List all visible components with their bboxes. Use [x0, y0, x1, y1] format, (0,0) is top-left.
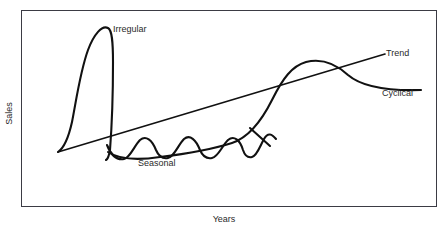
figure-title	[0, 0, 448, 3]
y-axis-label: Sales	[4, 94, 15, 134]
plot-frame	[21, 10, 437, 207]
series-label-cyclical: Cyclical	[382, 88, 413, 99]
time-series-decomposition-figure: Irregular Trend Cyclical Seasonal Sales …	[0, 0, 448, 233]
series-label-irregular: Irregular	[113, 24, 147, 35]
x-axis-label: Years	[0, 214, 448, 225]
series-label-trend: Trend	[386, 48, 409, 59]
series-label-seasonal: Seasonal	[138, 158, 176, 169]
